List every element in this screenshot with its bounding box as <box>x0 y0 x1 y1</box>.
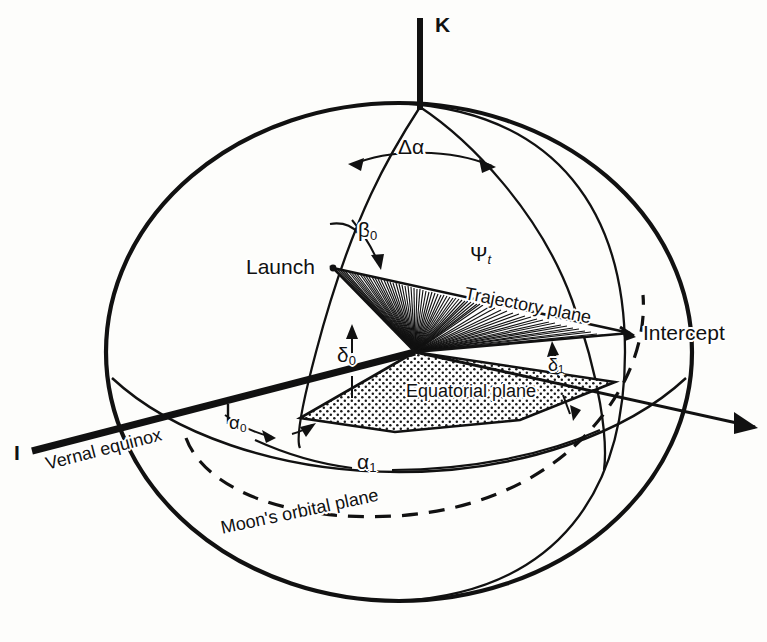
delta-0-subscript: 0 <box>349 353 356 368</box>
intercept-point-label: Intercept <box>643 322 725 343</box>
alpha-1-label: α1 <box>357 451 376 474</box>
axis-label-i: I <box>14 442 20 463</box>
delta-0-label: δ0 <box>337 344 356 367</box>
beta-0-symbol: β <box>358 218 370 241</box>
delta-1-label: δ1 <box>548 356 564 376</box>
diagram-canvas: K I Launch Intercept Δα β0 δ0 δ1 α0 α1 Ψ… <box>0 0 767 642</box>
launch-marker <box>330 265 337 272</box>
launch-point-label: Launch <box>246 256 315 277</box>
alpha-0-label: α0 <box>229 413 247 433</box>
alpha-0-subscript: 0 <box>240 421 247 434</box>
psi-subscript: t <box>488 252 492 267</box>
alpha-1-subscript: 1 <box>369 460 376 475</box>
psi-t-label: Ψt <box>470 243 491 266</box>
sphere-limb-ellipse <box>399 103 625 601</box>
sphere-outline <box>106 103 692 601</box>
beta-0-label: β0 <box>358 219 377 242</box>
alpha-0-symbol: α <box>229 412 240 433</box>
delta-1-subscript: 1 <box>558 363 564 375</box>
axis-label-k: K <box>435 14 450 35</box>
beta-0-subscript: 0 <box>370 228 377 243</box>
delta-1-symbol: δ <box>548 355 558 375</box>
equatorial-plane-label: Equatorial plane <box>406 382 536 400</box>
delta-alpha-label: Δα <box>398 136 424 157</box>
alpha-1-symbol: α <box>357 450 369 473</box>
psi-symbol: Ψ <box>470 242 488 265</box>
delta-0-symbol: δ <box>337 343 349 366</box>
